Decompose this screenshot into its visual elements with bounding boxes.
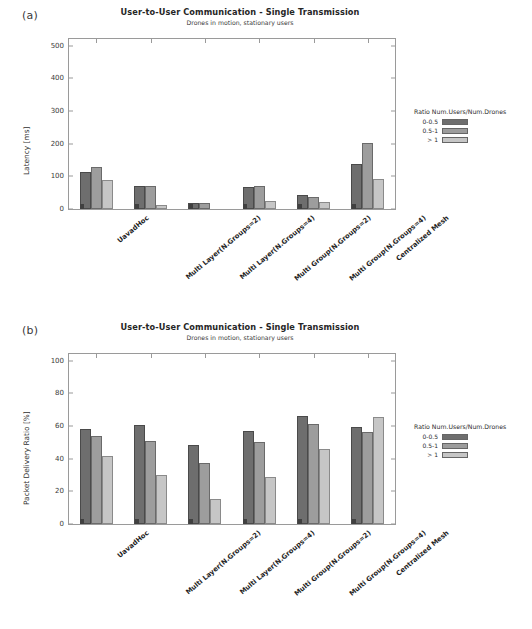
plot-area-b: 020406080100: [68, 353, 396, 525]
bar: [199, 203, 210, 209]
legend-swatch-0: [442, 434, 468, 440]
y-tick-mark: [391, 45, 395, 46]
bar: [80, 429, 91, 524]
axis-foot-marker: [298, 519, 302, 524]
legend-swatch-2: [442, 137, 468, 143]
chart-panel-a: (a) User-to-User Communication - Single …: [0, 0, 532, 314]
bar-group: [78, 167, 114, 210]
y-tick-mark: [69, 110, 73, 111]
bar: [145, 186, 156, 209]
axis-foot-marker: [352, 204, 356, 209]
y-axis-label-b: Packet Delivery Ratio [%]: [22, 411, 31, 505]
x-tick-mark: [259, 354, 260, 358]
y-tick-label: 200: [51, 140, 64, 148]
bar: [102, 456, 113, 524]
bar: [373, 179, 384, 209]
x-tick-label: UavadHoc: [116, 214, 151, 245]
y-tick-label: 300: [51, 107, 64, 115]
bar: [265, 201, 276, 209]
axis-foot-marker: [352, 519, 356, 524]
x-tick-mark: [314, 354, 315, 358]
bar: [210, 499, 221, 524]
bar: [134, 425, 145, 524]
y-tick-mark: [391, 176, 395, 177]
legend-item-0: 0-0.5: [414, 433, 506, 440]
y-tick-mark: [69, 45, 73, 46]
y-tick-mark: [391, 425, 395, 426]
y-tick-label: 100: [51, 357, 64, 365]
y-tick-mark: [69, 360, 73, 361]
y-tick-mark: [69, 458, 73, 459]
legend-item-1: 0.5-1: [414, 442, 506, 449]
bar-group: [78, 429, 114, 524]
bar: [319, 449, 330, 524]
y-tick-mark: [391, 360, 395, 361]
legend-item-2: > 1: [414, 136, 506, 143]
y-tick-mark: [391, 110, 395, 111]
y-tick-mark: [391, 143, 395, 144]
y-tick-label: 80: [55, 389, 64, 397]
x-tick-mark: [96, 39, 97, 43]
legend-swatch-2: [442, 452, 468, 458]
legend-label-2: > 1: [414, 136, 438, 143]
y-tick-label: 500: [51, 42, 64, 50]
bar: [145, 441, 156, 524]
bar: [351, 427, 362, 524]
legend-label-1: 0.5-1: [414, 442, 438, 449]
bar: [362, 432, 373, 524]
bar-group: [296, 416, 332, 524]
legend-b: Ratio Num.Users/Num.Drones 0-0.5 0.5-1 >…: [414, 423, 506, 460]
x-tick-mark: [368, 39, 369, 43]
y-tick-mark: [391, 491, 395, 492]
y-tick-mark: [69, 393, 73, 394]
y-tick-label: 0: [60, 205, 64, 213]
bar: [102, 180, 113, 209]
y-axis-label-a: Latency [ms]: [22, 127, 31, 175]
bar: [265, 477, 276, 524]
y-tick-label: 0: [60, 520, 64, 528]
axis-foot-marker: [189, 519, 193, 524]
y-tick-mark: [391, 209, 395, 210]
y-tick-mark: [69, 209, 73, 210]
panel-label-b: (b): [22, 324, 38, 337]
bar: [188, 445, 199, 524]
chart-title-b: User-to-User Communication - Single Tran…: [60, 322, 420, 332]
bar: [156, 475, 167, 524]
axis-foot-marker: [135, 519, 139, 524]
x-tick-mark: [259, 39, 260, 43]
bar: [254, 186, 265, 209]
bar-group: [350, 143, 386, 209]
legend-title-b: Ratio Num.Users/Num.Drones: [414, 423, 506, 430]
bar: [308, 424, 319, 524]
y-tick-mark: [391, 458, 395, 459]
bar: [297, 416, 308, 524]
plot-area-a: 0100200300400500: [68, 38, 396, 210]
x-tick-mark: [96, 354, 97, 358]
y-tick-label: 100: [51, 172, 64, 180]
bar: [254, 442, 265, 524]
legend-label-0: 0-0.5: [414, 118, 438, 125]
panel-label-a: (a): [22, 9, 38, 22]
bar: [243, 431, 254, 524]
bar: [319, 202, 330, 209]
y-tick-mark: [391, 78, 395, 79]
legend-item-0: 0-0.5: [414, 118, 506, 125]
x-tick-mark: [205, 354, 206, 358]
y-tick-label: 400: [51, 74, 64, 82]
y-tick-mark: [69, 78, 73, 79]
legend-swatch-0: [442, 119, 468, 125]
bar-group: [133, 425, 169, 524]
legend-swatch-1: [442, 128, 468, 134]
bar: [91, 436, 102, 524]
y-tick-mark: [391, 524, 395, 525]
bar: [351, 164, 362, 209]
x-tick-mark: [151, 354, 152, 358]
y-tick-mark: [69, 491, 73, 492]
chart-subtitle-a: Drones in motion, stationary users: [60, 19, 420, 26]
bar: [373, 417, 384, 524]
y-tick-label: 20: [55, 487, 64, 495]
legend-item-2: > 1: [414, 451, 506, 458]
chart-subtitle-b: Drones in motion, stationary users: [60, 334, 420, 341]
axis-foot-marker: [243, 519, 247, 524]
chart-panel-b: (b) User-to-User Communication - Single …: [0, 315, 532, 629]
